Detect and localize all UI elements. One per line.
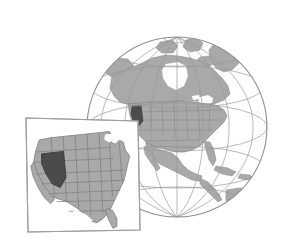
inset-panel-group — [26, 118, 140, 232]
figure-root: Locator map: Nevada highlighted on a glo… — [0, 0, 282, 241]
locator-map-illustration — [0, 0, 282, 241]
